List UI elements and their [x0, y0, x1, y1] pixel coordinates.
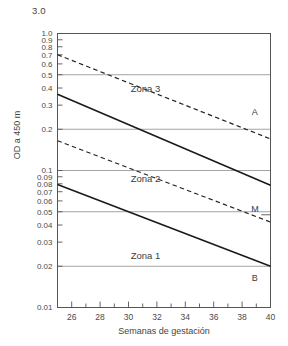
x-tick-label: 34: [181, 312, 191, 322]
y-tick-label: 0.03: [37, 238, 53, 247]
series-line: [58, 185, 271, 267]
series-line: [58, 55, 271, 139]
y-tick-label: 0.7: [41, 51, 53, 60]
gridlines-group: [58, 75, 271, 267]
chart-annotation: Zona 1: [131, 250, 161, 261]
x-tick-label: 28: [95, 312, 105, 322]
chart-annotation: Zona 2: [131, 173, 161, 184]
x-tick-label: 40: [266, 312, 276, 322]
x-tick-label: 38: [237, 312, 247, 322]
y-tick-label: 0.04: [37, 221, 53, 230]
chart-annotation: B: [252, 273, 258, 283]
annotations-group: Zona 3Zona 2Zona 1AMB: [131, 83, 271, 284]
x-axis-ticks: 2628303234363840: [67, 302, 276, 322]
y-tick-label: 0.2: [41, 125, 53, 134]
y-tick-label: 0.4: [41, 84, 53, 93]
y-tick-label: 0.05: [37, 208, 53, 217]
chart-annotation: M: [251, 204, 259, 214]
series-lines-group: [58, 55, 271, 267]
y-tick-label: 0.02: [37, 262, 53, 271]
chart-canvas: 1.00.90.80.70.60.50.40.30.20.10.090.080.…: [0, 0, 288, 346]
y-tick-label: 0.07: [37, 188, 53, 197]
liley-curve-chart: 3.0 OD a 450 m Semanas de gestación 1.00…: [0, 0, 288, 346]
y-tick-label: 0.06: [37, 197, 53, 206]
x-tick-label: 36: [209, 312, 219, 322]
chart-annotation: Zona 3: [131, 83, 161, 94]
y-tick-label: 0.5: [41, 71, 53, 80]
y-tick-label: 0.3: [41, 101, 53, 110]
series-line: [58, 94, 271, 185]
y-tick-label: 0.6: [41, 60, 53, 69]
x-tick-label: 30: [124, 312, 134, 322]
y-tick-label: 0.01: [37, 303, 53, 312]
chart-annotation: A: [252, 107, 258, 117]
x-tick-label: 32: [152, 312, 162, 322]
y-axis-ticks: 1.00.90.80.70.60.50.40.30.20.10.090.080.…: [37, 29, 63, 312]
x-tick-label: 26: [67, 312, 77, 322]
series-line: [58, 141, 271, 222]
